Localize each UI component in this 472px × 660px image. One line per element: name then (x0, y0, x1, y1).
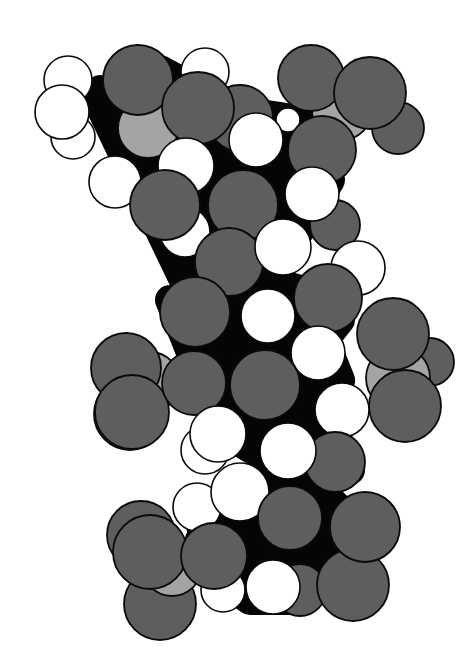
oxygen-atom (95, 375, 169, 449)
hydrogen-atom (260, 423, 316, 479)
hydrogen-atom (291, 326, 345, 380)
molecular-model-figure (0, 0, 472, 660)
oxygen-atom (130, 170, 200, 240)
oxygen-atom (357, 298, 429, 370)
hydrogen-atom (246, 560, 300, 614)
oxygen-atom (162, 72, 234, 144)
oxygen-atom (330, 492, 400, 562)
oxygen-atom (181, 523, 247, 589)
oxygen-atom (160, 277, 230, 347)
oxygen-atom (369, 370, 441, 442)
oxygen-atom (230, 350, 300, 420)
hydrogen-atom (285, 167, 339, 221)
hydrogen-atom (241, 289, 295, 343)
hydrogen-atom (255, 219, 311, 275)
oxygen-atom (294, 264, 362, 332)
oxygen-atom (334, 57, 406, 129)
hydrogen-atom (35, 85, 89, 139)
space-filling-model (0, 0, 472, 660)
hydrogen-atom (190, 406, 246, 462)
hydrogen-atom (315, 383, 369, 437)
oxygen-atom (258, 486, 322, 550)
hydrogen-atom (229, 113, 283, 167)
oxygen-atom (113, 515, 187, 589)
